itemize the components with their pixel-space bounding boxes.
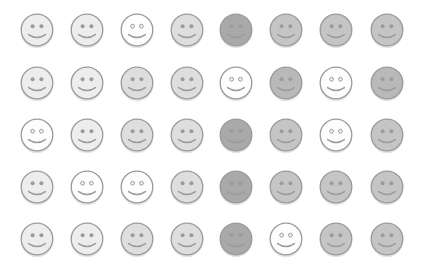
smiley-face-icon [120, 170, 154, 204]
smiley-face-icon [370, 13, 404, 47]
smiley-face-icon [319, 222, 353, 256]
smiley-face-icon [319, 13, 353, 47]
smiley-face-icon [219, 66, 253, 100]
smiley-face-icon [319, 170, 353, 204]
smiley-face-icon [120, 13, 154, 47]
smiley-face-icon [319, 118, 353, 152]
smiley-face-icon [370, 222, 404, 256]
smiley-face-icon [170, 118, 204, 152]
smiley-face-icon [20, 66, 54, 100]
smiley-face-icon [20, 222, 54, 256]
smiley-face-icon [70, 13, 104, 47]
smiley-face-icon [269, 118, 303, 152]
smiley-face-icon [370, 170, 404, 204]
smiley-face-icon [269, 222, 303, 256]
smiley-face-icon [120, 66, 154, 100]
smiley-face-icon [269, 170, 303, 204]
smiley-face-icon [20, 170, 54, 204]
smiley-face-icon [120, 222, 154, 256]
smiley-face-icon [70, 222, 104, 256]
smiley-face-icon [219, 170, 253, 204]
smiley-face-icon [170, 170, 204, 204]
smiley-face-icon [20, 118, 54, 152]
smiley-face-icon [120, 118, 154, 152]
smiley-face-icon [70, 118, 104, 152]
smiley-face-icon [319, 66, 353, 100]
smiley-face-icon [170, 222, 204, 256]
smiley-face-icon [20, 13, 54, 47]
smiley-face-icon [370, 118, 404, 152]
smiley-face-icon [219, 13, 253, 47]
smiley-face-icon [170, 13, 204, 47]
smiley-face-icon [70, 170, 104, 204]
smiley-face-icon [370, 66, 404, 100]
smiley-face-icon [170, 66, 204, 100]
smiley-face-icon [219, 118, 253, 152]
smiley-face-icon [70, 66, 104, 100]
smiley-face-icon [269, 66, 303, 100]
smiley-face-icon [219, 222, 253, 256]
smiley-face-icon [269, 13, 303, 47]
smiley-face-grid [0, 0, 424, 275]
